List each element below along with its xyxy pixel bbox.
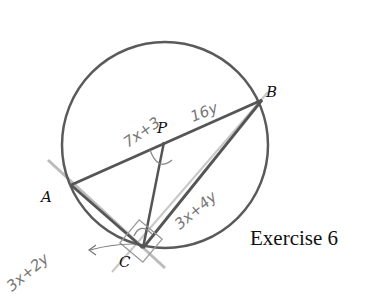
geometry-diagram: A B C P 7x+3 16y 3x+4y 3x+2y Exercise 6: [0, 0, 388, 298]
label-point-b: B: [265, 83, 277, 101]
chord-ab: [71, 100, 262, 185]
exercise-caption: Exercise 6: [250, 226, 338, 250]
circle: [62, 42, 268, 248]
chord-ac: [71, 185, 143, 248]
label-point-a: A: [39, 188, 52, 206]
label-point-c: C: [119, 253, 131, 271]
annotation-tangent-angle: 3x+2y: [3, 249, 53, 295]
